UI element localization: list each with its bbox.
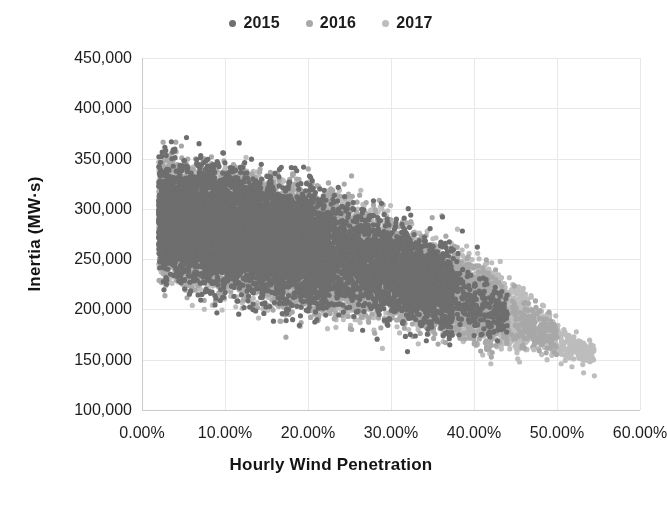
- y-tick-label: 350,000: [32, 150, 132, 168]
- legend-label: 2017: [396, 14, 432, 32]
- x-axis-tick-labels: 0.00%10.00%20.00%30.00%40.00%50.00%60.00…: [0, 424, 662, 448]
- x-tick-label: 40.00%: [447, 424, 501, 442]
- legend-label: 2015: [243, 14, 279, 32]
- legend-label: 2016: [320, 14, 356, 32]
- x-tick-label: 20.00%: [281, 424, 335, 442]
- y-tick-label: 300,000: [32, 200, 132, 218]
- x-tick-label: 10.00%: [198, 424, 252, 442]
- legend-entry-2016[interactable]: 2016: [306, 14, 356, 32]
- y-tick-label: 450,000: [32, 49, 132, 67]
- legend-marker-icon: [382, 20, 389, 27]
- x-axis-title: Hourly Wind Penetration: [0, 455, 662, 475]
- y-tick-label: 100,000: [32, 401, 132, 419]
- y-tick-label: 400,000: [32, 99, 132, 117]
- y-axis-title: Inertia (MW·s): [25, 104, 45, 364]
- legend-marker-icon: [229, 20, 236, 27]
- legend-entry-2015[interactable]: 2015: [229, 14, 279, 32]
- x-tick-label: 30.00%: [364, 424, 418, 442]
- y-tick-label: 200,000: [32, 300, 132, 318]
- x-tick-label: 0.00%: [119, 424, 164, 442]
- y-tick-label: 150,000: [32, 351, 132, 369]
- y-tick-label: 250,000: [32, 250, 132, 268]
- legend-entry-2017[interactable]: 2017: [382, 14, 432, 32]
- legend-marker-icon: [306, 20, 313, 27]
- x-tick-label: 60.00%: [613, 424, 667, 442]
- x-tick-label: 50.00%: [530, 424, 584, 442]
